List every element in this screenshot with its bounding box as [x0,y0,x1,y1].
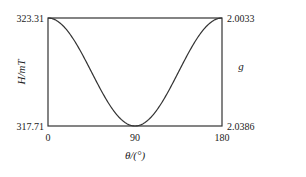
x-tick-180: 180 [215,132,230,143]
plot-frame [48,18,222,126]
y-left-tick-bottom: 317.71 [17,121,45,132]
y-right-tick-top: 2.0033 [227,13,255,24]
x-tick-90: 90 [130,132,140,143]
y-right-axis-label: g [238,60,244,72]
x-axis-label: θ/(°) [125,149,146,162]
data-curve [48,18,222,126]
y-right-tick-bottom: 2.0386 [227,121,255,132]
y-left-tick-top: 323.31 [17,13,45,24]
y-left-axis-label: H/mT [15,59,27,86]
chart: 323.31 317.71 2.0033 2.0386 0 90 180 θ/(… [0,0,306,177]
x-tick-0: 0 [46,132,51,143]
